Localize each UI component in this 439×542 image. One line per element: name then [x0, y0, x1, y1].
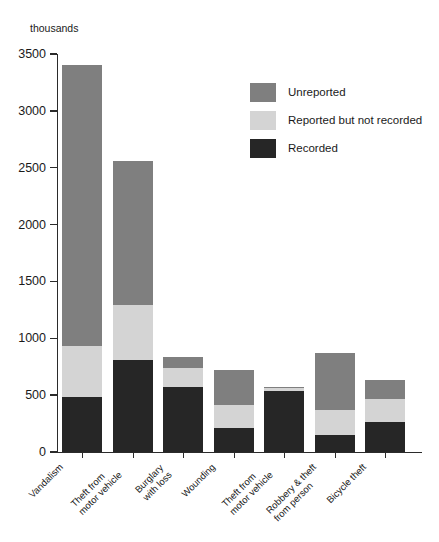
bar-segment-recorded[interactable] — [365, 422, 405, 452]
x-axis-category-label: Burglary with loss — [133, 462, 174, 503]
x-axis-line — [57, 452, 422, 453]
bar-column[interactable] — [214, 54, 254, 452]
bar-segment-reported-not-recorded[interactable] — [365, 399, 405, 423]
x-axis-category-label: Vandalism — [27, 462, 65, 500]
x-axis-category-label: Theft from motor vehicle — [69, 462, 124, 517]
y-axis-tick-label: 0 — [39, 445, 46, 459]
stacked-bar-chart: thousands 0500100015002000250030003500 V… — [0, 0, 439, 542]
y-axis-tick-mark — [50, 53, 57, 54]
x-axis-tick-mark — [385, 452, 386, 458]
bar-segment-recorded[interactable] — [264, 391, 304, 452]
y-axis-tick-mark — [50, 394, 57, 395]
y-axis-tick-mark — [50, 167, 57, 168]
legend-item-label: Recorded — [288, 142, 338, 154]
legend-item-label: Reported but not recorded — [288, 114, 422, 126]
bar-segment-reported-not-recorded[interactable] — [113, 305, 153, 360]
bar-segment-reported-not-recorded[interactable] — [264, 388, 304, 391]
legend-item[interactable]: Unreported — [250, 78, 422, 106]
legend-item-label: Unreported — [288, 86, 346, 98]
y-axis-tick-label: 3500 — [18, 47, 46, 61]
bar-segment-unreported[interactable] — [214, 370, 254, 405]
legend-swatch-unreported — [250, 83, 276, 102]
chart-legend: UnreportedReported but not recordedRecor… — [250, 78, 422, 162]
bar-segment-unreported[interactable] — [365, 380, 405, 398]
x-axis-tick-mark — [234, 452, 235, 458]
bar-column[interactable] — [62, 54, 102, 452]
bar-segment-recorded[interactable] — [163, 387, 203, 452]
x-axis-category-label: Robbery & theft from person — [264, 462, 326, 524]
y-axis-tick-mark — [50, 224, 57, 225]
y-axis-unit-label: thousands — [30, 22, 78, 34]
y-axis-tick-label: 500 — [25, 388, 46, 402]
x-axis-tick-mark — [284, 452, 285, 458]
bar-segment-reported-not-recorded[interactable] — [315, 410, 355, 435]
bar-segment-unreported[interactable] — [264, 387, 304, 388]
x-axis-tick-mark — [335, 452, 336, 458]
x-axis-category-label: Bicycle theft — [325, 462, 369, 506]
bar-segment-reported-not-recorded[interactable] — [62, 346, 102, 397]
x-axis-category-label: Wounding — [179, 462, 217, 500]
bar-segment-recorded[interactable] — [214, 428, 254, 452]
y-axis-tick-label: 2000 — [18, 218, 46, 232]
y-axis-tick-label: 2500 — [18, 161, 46, 175]
x-axis-tick-mark — [183, 452, 184, 458]
x-axis-tick-mark — [133, 452, 134, 458]
y-axis-tick-mark — [50, 338, 57, 339]
legend-swatch-recorded — [250, 139, 276, 158]
bar-segment-unreported[interactable] — [315, 353, 355, 410]
y-axis-tick-mark — [50, 451, 57, 452]
y-axis-tick-mark — [50, 110, 57, 111]
y-axis-tick-label: 1500 — [18, 274, 46, 288]
bar-segment-reported-not-recorded[interactable] — [163, 368, 203, 387]
legend-item[interactable]: Recorded — [250, 134, 422, 162]
bar-column[interactable] — [163, 54, 203, 452]
y-axis-tick-label: 1000 — [18, 331, 46, 345]
x-axis-tick-mark — [82, 452, 83, 458]
legend-item[interactable]: Reported but not recorded — [250, 106, 422, 134]
bar-segment-unreported[interactable] — [113, 161, 153, 305]
bar-segment-reported-not-recorded[interactable] — [214, 405, 254, 428]
bar-segment-unreported[interactable] — [62, 65, 102, 346]
bar-column[interactable] — [113, 54, 153, 452]
bar-segment-unreported[interactable] — [163, 357, 203, 368]
bar-segment-recorded[interactable] — [315, 435, 355, 452]
legend-swatch-reported — [250, 111, 276, 130]
y-axis-tick-mark — [50, 281, 57, 282]
bar-segment-recorded[interactable] — [113, 360, 153, 452]
y-axis-tick-label: 3000 — [18, 104, 46, 118]
bar-segment-recorded[interactable] — [62, 397, 102, 452]
